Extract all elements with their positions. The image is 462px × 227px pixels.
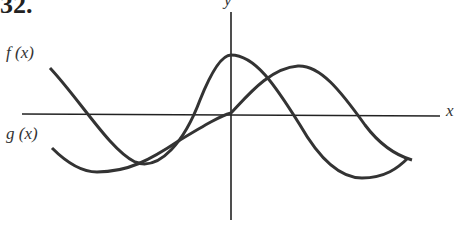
function-graph	[0, 0, 462, 227]
g-curve	[52, 66, 412, 172]
f-curve	[50, 55, 408, 178]
